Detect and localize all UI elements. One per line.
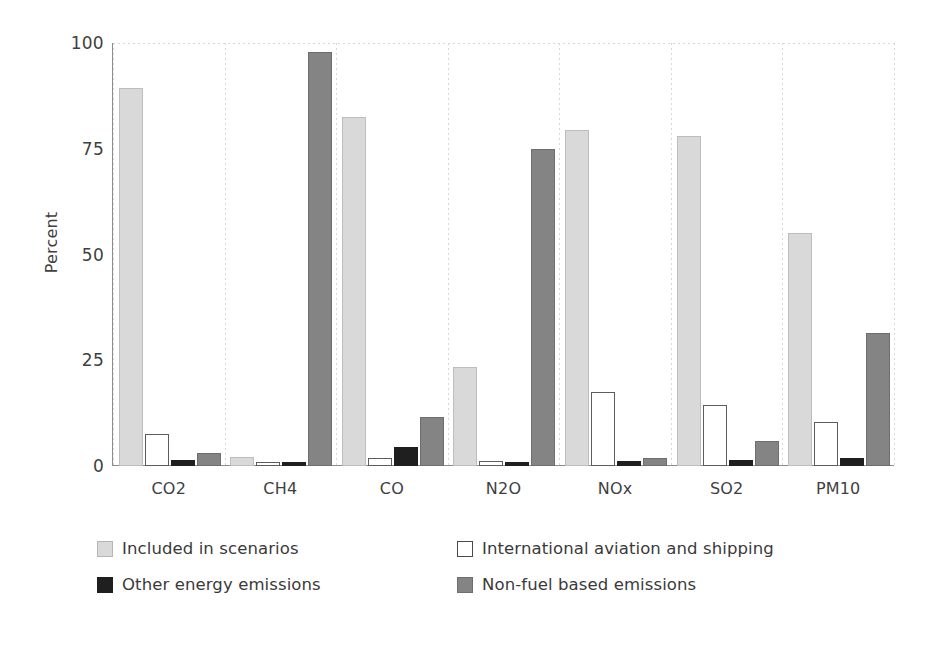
legend-label: Other energy emissions [122, 575, 321, 594]
bar-group [782, 43, 894, 466]
bar[interactable] [565, 130, 589, 466]
bar[interactable] [591, 392, 615, 466]
bar[interactable] [866, 333, 890, 466]
bar[interactable] [342, 117, 366, 466]
bar[interactable] [145, 434, 169, 466]
legend-swatch-icon [457, 577, 473, 593]
bar[interactable] [840, 458, 864, 466]
bar[interactable] [394, 447, 418, 466]
bar[interactable] [505, 462, 529, 466]
y-tick-label: 50 [42, 245, 104, 265]
x-tick-label: PM10 [768, 479, 908, 498]
legend-label: Included in scenarios [122, 539, 299, 558]
bar[interactable] [729, 460, 753, 466]
chart-legend: Included in scenariosInternational aviat… [97, 539, 897, 619]
legend-label: International aviation and shipping [482, 539, 774, 558]
legend-item[interactable]: Other energy emissions [97, 575, 321, 594]
bar[interactable] [368, 458, 392, 466]
bar[interactable] [308, 52, 332, 466]
y-tick-label: 0 [42, 456, 104, 476]
y-axis-tick-labels: 0255075100 [42, 0, 104, 646]
legend-swatch-icon [457, 541, 473, 557]
legend-item[interactable]: Included in scenarios [97, 539, 299, 558]
bar-group [113, 43, 225, 466]
bar[interactable] [703, 405, 727, 466]
bar[interactable] [119, 88, 143, 466]
y-tick-label: 75 [42, 139, 104, 159]
bar[interactable] [788, 233, 812, 466]
bar[interactable] [453, 367, 477, 466]
bar-group [225, 43, 337, 466]
bar[interactable] [814, 422, 838, 466]
legend-swatch-icon [97, 577, 113, 593]
bar[interactable] [171, 460, 195, 466]
bar[interactable] [677, 136, 701, 466]
legend-label: Non-fuel based emissions [482, 575, 696, 594]
y-tick-label: 100 [42, 33, 104, 53]
bar[interactable] [230, 457, 254, 466]
bar[interactable] [617, 461, 641, 466]
bar[interactable] [755, 441, 779, 466]
bar[interactable] [197, 453, 221, 466]
bar-chart: Percent 0255075100 CO2CH4CON2ONOxSO2PM10… [0, 0, 934, 646]
gridline-vertical [894, 43, 895, 466]
legend-swatch-icon [97, 541, 113, 557]
bar[interactable] [256, 462, 280, 466]
bar-group [559, 43, 671, 466]
bar-group [336, 43, 448, 466]
bar-group [448, 43, 560, 466]
bar[interactable] [531, 149, 555, 466]
bar[interactable] [643, 458, 667, 466]
bar[interactable] [282, 462, 306, 466]
bar-group [671, 43, 783, 466]
legend-item[interactable]: Non-fuel based emissions [457, 575, 696, 594]
bar[interactable] [420, 417, 444, 466]
bar[interactable] [479, 461, 503, 466]
plot-area [113, 43, 894, 466]
y-tick-label: 25 [42, 350, 104, 370]
legend-item[interactable]: International aviation and shipping [457, 539, 774, 558]
